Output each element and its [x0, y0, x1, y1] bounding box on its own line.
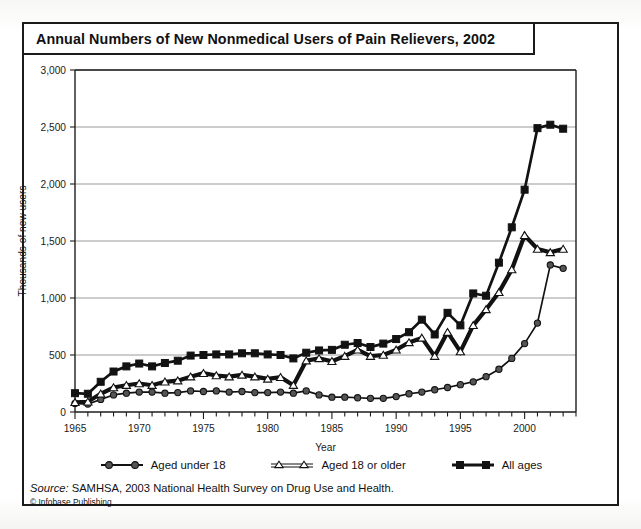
page-title: Annual Numbers of New Nonmedical Users o… [36, 31, 495, 47]
data-point [200, 352, 207, 359]
y-axis-tick-label: 0 [60, 407, 66, 418]
x-axis-title: Year [315, 442, 336, 453]
data-point [328, 346, 335, 353]
series-older [71, 232, 567, 406]
data-point [97, 378, 104, 385]
data-point [174, 357, 181, 364]
y-axis-tick-label: 1,000 [41, 293, 67, 304]
y-axis-tick-label: 500 [49, 350, 66, 361]
data-point [316, 392, 322, 398]
data-point [380, 395, 386, 401]
data-point [341, 341, 348, 348]
data-point [470, 379, 476, 385]
data-point [443, 329, 451, 336]
data-point [560, 125, 567, 132]
data-point [149, 389, 155, 395]
data-point [84, 390, 91, 397]
data-point [303, 349, 310, 356]
figure-page: Annual Numbers of New Nonmedical Users o… [0, 0, 641, 529]
data-point [239, 388, 245, 394]
data-point [444, 384, 450, 390]
data-point [290, 390, 296, 396]
data-point [110, 392, 116, 398]
data-point [149, 363, 156, 370]
data-point [419, 389, 425, 395]
data-point [406, 329, 413, 336]
series-line-outer [75, 235, 563, 402]
data-point [175, 390, 181, 396]
data-point [277, 352, 284, 359]
data-point [188, 388, 194, 394]
data-point [432, 387, 438, 393]
legend-marker-filled-square [450, 459, 496, 471]
data-point [161, 359, 168, 366]
data-point [483, 292, 490, 299]
y-axis-tick-label: 2,500 [41, 122, 67, 133]
x-axis-tick-label: 1980 [256, 423, 279, 434]
data-point [547, 262, 553, 268]
data-point [444, 309, 451, 316]
data-point [393, 336, 400, 343]
data-point [355, 395, 361, 401]
data-point [251, 350, 258, 357]
source-text: SAMHSA, 2003 National Health Survey on D… [69, 482, 394, 494]
data-point [457, 382, 463, 388]
data-point [277, 389, 283, 395]
source-block: Source: SAMHSA, 2003 National Health Sur… [30, 482, 590, 507]
legend-marker-filled-circle [99, 459, 145, 471]
x-axis-tick-label: 1970 [128, 423, 151, 434]
legend-label-older: Aged 18 or older [321, 459, 405, 471]
source-line: Source: SAMHSA, 2003 National Health Sur… [30, 482, 590, 494]
data-point [316, 347, 323, 354]
data-point [123, 363, 130, 370]
data-point [136, 389, 142, 395]
data-point [522, 341, 528, 347]
data-point [226, 389, 232, 395]
legend-label-allages: All ages [502, 459, 543, 471]
x-axis-tick-label: 1990 [385, 423, 408, 434]
data-point [187, 352, 194, 359]
data-point [213, 388, 219, 394]
y-axis-tick-label: 1,500 [41, 236, 67, 247]
legend-label-under18: Aged under 18 [151, 459, 226, 471]
data-point [393, 394, 399, 400]
data-point [534, 125, 541, 132]
data-point [342, 394, 348, 400]
data-point [252, 390, 258, 396]
copyright-line: © Infobase Publishing [30, 497, 590, 507]
y-axis-tick-label: 2,000 [41, 179, 67, 190]
chart-plot-area: 05001,0001,5002,0002,5003,00019651970197… [0, 33, 593, 480]
data-point [367, 395, 373, 401]
data-point [136, 360, 143, 367]
source-prefix: Source: [30, 482, 69, 494]
series-line-inner [75, 235, 563, 402]
data-point [110, 368, 117, 375]
line-chart: 05001,0001,5002,0002,5003,00019651970197… [0, 33, 593, 480]
data-point [534, 320, 540, 326]
data-point [560, 265, 566, 271]
data-point [457, 322, 464, 329]
data-point [162, 390, 168, 396]
data-point [521, 232, 529, 239]
x-axis-tick-label: 1995 [449, 423, 472, 434]
data-point [547, 121, 554, 128]
data-point [354, 340, 361, 347]
data-point [367, 344, 374, 351]
data-point [239, 350, 246, 357]
data-point [213, 351, 220, 358]
y-axis-title: Thousands of new users [17, 186, 28, 297]
data-point [265, 390, 271, 396]
legend-item-under18: Aged under 18 [99, 459, 226, 471]
legend-item-allages: All ages [450, 459, 543, 471]
x-axis-tick-label: 1975 [192, 423, 215, 434]
data-point [431, 331, 438, 338]
legend-item-older: Aged 18 or older [269, 459, 405, 471]
x-axis-tick-label: 2000 [513, 423, 536, 434]
data-point [123, 390, 129, 396]
data-point [496, 366, 502, 372]
data-point [406, 391, 412, 397]
data-point [483, 374, 489, 380]
data-point [521, 186, 528, 193]
data-point [290, 355, 297, 362]
x-axis-tick-label: 1985 [321, 423, 344, 434]
